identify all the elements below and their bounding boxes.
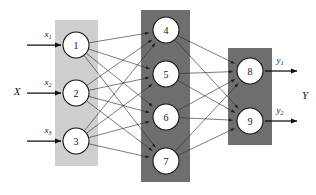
node-label-1: 1 (74, 40, 79, 51)
edge-1-to-4 (89, 33, 149, 43)
network-diagram: 123456789 x1x2x3y1y2 XY (0, 0, 316, 195)
node-label-4: 4 (164, 25, 169, 36)
node-label-5: 5 (164, 69, 169, 80)
input-label-x3: x3 (43, 125, 51, 136)
edge-3-to-6 (89, 121, 149, 137)
neural-network-figure: 123456789 x1x2x3y1y2 XY (0, 0, 316, 195)
node-label-3: 3 (74, 136, 79, 147)
node-label-8: 8 (248, 66, 253, 77)
output-label-y2: y2 (275, 105, 283, 116)
node-label-6: 6 (164, 112, 169, 123)
node-label-2: 2 (74, 88, 79, 99)
node-label-7: 7 (164, 156, 169, 167)
input-group-label: X (13, 85, 22, 97)
edge-2-to-6 (89, 96, 149, 112)
edge-3-to-7 (89, 144, 149, 157)
input-label-x2: x2 (43, 77, 51, 88)
output-label-y1: y1 (275, 55, 283, 66)
output-group-label: Y (302, 89, 310, 101)
input-label-x1: x1 (43, 29, 51, 40)
node-label-9: 9 (248, 116, 253, 127)
